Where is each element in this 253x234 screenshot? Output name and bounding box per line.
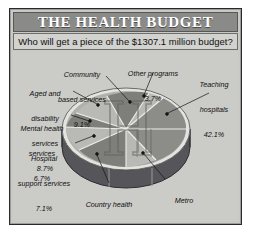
chart-subtitle: Who will get a piece of the $1307.1 mill…	[18, 36, 232, 47]
pie-graphic: Community based services 9.1% Other prog…	[13, 51, 238, 221]
pie-chart-area: Community based services 9.1% Other prog…	[13, 51, 238, 221]
label-teaching-hospitals: Teaching hospitals 42.1%	[190, 64, 238, 156]
subtitle-bar: Who will get a piece of the $1307.1 mill…	[13, 33, 238, 50]
title-bar: THE HEALTH BUDGET	[13, 12, 238, 32]
label-country-health-services: Country health services 14.9%	[65, 184, 153, 221]
chart-frame: THE HEALTH BUDGET Who will get a piece o…	[9, 8, 242, 225]
label-metro-non-teaching-hospitals: Metro non-teaching hospitals 7.7%	[151, 180, 217, 221]
page-title: THE HEALTH BUDGET	[38, 14, 214, 31]
label-other-programs: Other programs 3.7%	[119, 53, 187, 120]
